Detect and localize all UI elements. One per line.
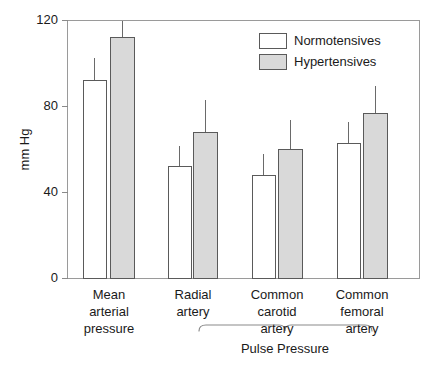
x-label-carotid-line1: Common: [232, 287, 322, 302]
x-label-femoral-line2: femoral: [317, 304, 407, 319]
legend-swatch-hypertensives: [260, 55, 287, 70]
bar-hypertensive-femoral: [364, 114, 388, 279]
x-label-radial-line1: Radial: [148, 287, 238, 302]
x-label-map-line1: Mean: [64, 287, 154, 302]
x-label-carotid-line2: carotid: [232, 304, 322, 319]
legend-swatch-normotensives: [260, 34, 287, 49]
y-tick-label-80: 80: [28, 98, 58, 113]
y-axis-title: mm Hg: [17, 120, 32, 180]
y-axis-ticks: [62, 21, 68, 279]
bar-normotensive-map: [84, 81, 107, 279]
bar-hypertensive-carotid: [279, 150, 303, 279]
x-label-femoral-line1: Common: [317, 287, 407, 302]
x-label-femoral-line3: artery: [317, 321, 407, 336]
x-label-map-line2: arterial: [64, 304, 154, 319]
y-tick-label-120: 120: [28, 12, 58, 27]
bar-hypertensive-map: [111, 38, 135, 279]
x-label-radial-line2: artery: [148, 304, 238, 319]
bar-normotensive-femoral: [338, 144, 361, 279]
legend-label-normotensives: Normotensives: [294, 33, 381, 48]
legend-label-hypertensives: Hypertensives: [294, 54, 376, 69]
bar-hypertensive-radial: [194, 133, 218, 279]
pulse-pressure-bracket-label: Pulse Pressure: [200, 341, 370, 356]
y-tick-label-0: 0: [28, 270, 58, 285]
bar-normotensive-carotid: [253, 176, 276, 279]
bar-chart-figure: 120 80 40 0 mm Hg Normotensives Hyperten…: [0, 0, 436, 373]
x-label-carotid-line3: artery: [232, 321, 322, 336]
y-tick-label-40: 40: [28, 184, 58, 199]
bar-normotensive-radial: [169, 167, 192, 279]
x-label-map-line3: pressure: [64, 321, 154, 336]
